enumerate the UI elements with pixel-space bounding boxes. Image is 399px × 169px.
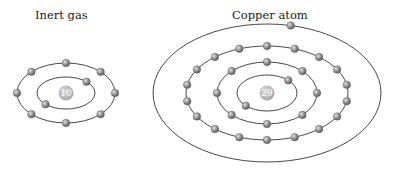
electron — [13, 89, 21, 97]
electron — [83, 78, 91, 86]
electron — [62, 59, 70, 67]
electron — [263, 120, 271, 128]
nucleus-label: 10 — [60, 88, 72, 98]
atom-comparison-figure: Inert gas Copper atom 10 29 — [0, 0, 399, 169]
electron — [97, 110, 105, 118]
electron — [111, 89, 119, 97]
electron — [228, 111, 236, 119]
electron — [263, 136, 271, 144]
electron — [28, 110, 36, 118]
electron — [291, 133, 299, 141]
electron — [28, 68, 36, 76]
electron — [315, 125, 323, 133]
electron — [263, 58, 271, 66]
copper-atom: 29 — [153, 22, 381, 162]
electron — [242, 102, 250, 110]
atom-diagrams-svg: 10 29 — [0, 0, 399, 169]
electron — [263, 42, 271, 50]
electron — [42, 101, 50, 109]
electron — [343, 97, 351, 105]
electron — [313, 89, 321, 97]
electron — [97, 68, 105, 76]
electron — [193, 66, 201, 74]
electron — [183, 97, 191, 105]
electron — [228, 67, 236, 75]
electron — [333, 66, 341, 74]
electron — [183, 81, 191, 89]
electron — [315, 53, 323, 61]
electron — [211, 125, 219, 133]
electron — [193, 113, 201, 121]
electron — [62, 119, 70, 127]
electron — [213, 89, 221, 97]
inert-gas-atom: 10 — [13, 59, 119, 127]
electron — [211, 53, 219, 61]
electron — [343, 81, 351, 89]
electron — [291, 45, 299, 53]
electron — [299, 111, 307, 119]
electron — [284, 77, 292, 85]
electron — [287, 22, 295, 30]
electron — [236, 133, 244, 141]
nucleus-label: 29 — [261, 88, 273, 98]
electron — [299, 67, 307, 75]
electron — [236, 45, 244, 53]
electron — [333, 113, 341, 121]
